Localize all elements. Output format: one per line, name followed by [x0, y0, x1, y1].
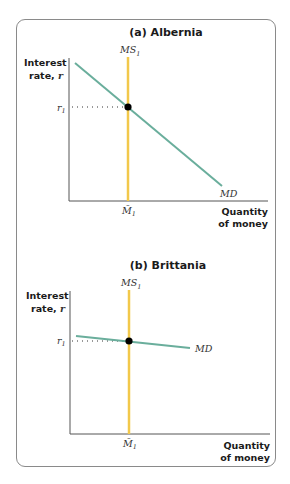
panel-b-md-label: MD — [194, 343, 213, 354]
panel-b-ylabel-line2: rate, r — [31, 303, 66, 314]
panel-b-ms-label: MS1 — [120, 277, 141, 291]
panel-b-md-curve — [76, 336, 190, 348]
panel-a-xlabel-line2: of money — [218, 218, 269, 229]
panel-a: (a) Albernia MS1 Interest rate, r r1 MD … — [24, 26, 269, 229]
panel-a-md-curve — [75, 63, 222, 186]
chart-canvas: (a) Albernia MS1 Interest rate, r r1 MD … — [0, 0, 290, 484]
panel-a-ms-label: MS1 — [119, 44, 140, 58]
panel-b-r1-label: r1 — [57, 335, 66, 348]
panel-a-md-label: MD — [219, 188, 238, 199]
panel-a-m1-label: M̄1 — [121, 205, 136, 218]
panel-a-r1-label: r1 — [57, 102, 66, 115]
panel-a-xlabel-line1: Quantity — [221, 206, 268, 217]
panel-a-ylabel-line1: Interest — [24, 57, 67, 68]
panel-b: (b) Brittania MS1 Interest rate, r r1 MD… — [26, 259, 271, 463]
panel-b-title: (b) Brittania — [130, 259, 206, 272]
panel-b-m1-label: M̄1 — [122, 438, 137, 451]
panel-a-ylabel-line2: rate, r — [29, 70, 64, 81]
panel-a-equilibrium-point — [124, 103, 131, 110]
panel-b-ylabel-line1: Interest — [26, 290, 69, 301]
panel-b-equilibrium-point — [125, 337, 132, 344]
panel-b-xlabel-line2: of money — [220, 452, 271, 463]
panel-a-title: (a) Albernia — [129, 26, 202, 39]
panel-b-xlabel-line1: Quantity — [223, 440, 270, 451]
